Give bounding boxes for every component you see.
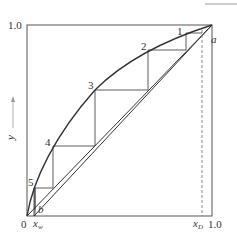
stage-label-3: 3 xyxy=(88,79,94,91)
xw-label: xw xyxy=(32,217,43,231)
y-tick-1: 1.0 xyxy=(8,19,22,31)
stage-label-5: 5 xyxy=(28,176,34,188)
operating-line xyxy=(34,25,212,216)
diagonal-line xyxy=(27,25,212,216)
y-axis-arrowhead xyxy=(11,96,15,102)
stage-label-4: 4 xyxy=(45,136,51,148)
point-b-label: b xyxy=(38,203,44,215)
point-a-label: a xyxy=(211,33,217,45)
stage-label-2: 2 xyxy=(141,40,147,52)
stage-label-1: 1 xyxy=(177,25,183,37)
y-axis-label: y xyxy=(4,135,16,141)
mccabe-thiele-diagram: 1.0 y 0 xw xD 1.0 a b 1 2 3 4 5 xyxy=(0,0,237,232)
xd-label: xD xyxy=(192,217,203,231)
x-tick-origin: 0 xyxy=(21,218,27,230)
x-tick-1: 1.0 xyxy=(208,218,222,230)
